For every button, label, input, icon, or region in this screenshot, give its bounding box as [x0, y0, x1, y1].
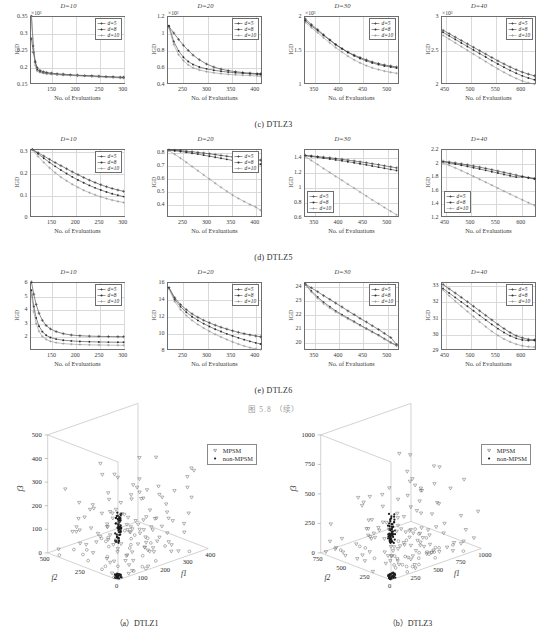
chart-cell-dtlz5-d40: D=404505005506001.21.41.61.822.2IGDNo. o… [411, 133, 547, 251]
x-tick-label: 250 [411, 574, 421, 581]
x-tick-label: 750 [456, 558, 466, 565]
x-tick-label: 200 [71, 86, 80, 92]
legend-label: d=10 [382, 32, 394, 38]
axis-exponent: ×10³ [305, 10, 315, 16]
x-tick-label: 300 [183, 558, 193, 565]
x-tick-label: 300 [202, 352, 211, 358]
legend-label: d=10 [320, 205, 332, 211]
legend-item: d=10 [309, 205, 331, 211]
x-tick-label: 550 [491, 219, 500, 225]
axis-label-f3: f3 [289, 486, 298, 492]
dot-marker-icon [211, 456, 220, 461]
x-tick-label: 350 [309, 352, 318, 358]
legend-item: d=10 [97, 32, 119, 38]
scatter-caption-a: （a）DTLZ1 [0, 617, 273, 628]
y-tick-label: 1.2 [411, 214, 439, 220]
x-axis-label: No. of Evaluations [304, 94, 399, 101]
legend-item: d=10 [97, 165, 119, 171]
y-tick-label: 2 [274, 13, 302, 19]
legend-label: d=10 [108, 32, 120, 38]
x-tick-label: 450 [440, 86, 449, 92]
legend-item-non-mpsm: non-MPSM [211, 455, 253, 463]
y-tick-label: 0.3 [0, 148, 28, 154]
chart-title: D=20 [137, 135, 274, 142]
x-tick-label: 250 [94, 219, 103, 225]
x-tick-label: 200 [71, 219, 80, 225]
chart-title: D=10 [0, 2, 137, 9]
y-axis-label: IGD [425, 302, 431, 328]
y-axis-label: IGD [151, 36, 157, 62]
x-tick-label: 400 [334, 219, 343, 225]
y-tick-label: 16 [137, 279, 165, 285]
y-tick-label: 0.8 [137, 149, 165, 155]
chart-title: D=10 [0, 135, 137, 142]
triangle-marker-icon [211, 448, 220, 453]
legend-item: d=10 [508, 32, 530, 38]
chart-title: D=30 [274, 268, 411, 275]
z-tick-label: 1000 [302, 431, 315, 438]
y-tick-label: 1.2 [137, 13, 165, 19]
chart-legend: d=5 d=8 d=10 [506, 284, 533, 306]
x-tick-label: 250 [94, 352, 103, 358]
y-tick-label: 2 [411, 160, 439, 166]
x-tick-label: 450 [358, 352, 367, 358]
axis-label-f2: f2 [51, 573, 57, 582]
y-tick-label: 0.4 [137, 81, 165, 87]
legend-label: d=10 [245, 165, 257, 171]
y-tick-label: 24 [274, 283, 302, 289]
x-tick-label: 100 [138, 574, 148, 581]
legend-item: d=10 [234, 165, 256, 171]
axis-label-f3: f3 [16, 486, 25, 492]
chart-legend: d=5 d=8 d=10 [95, 284, 122, 306]
legend-label: d=10 [519, 32, 531, 38]
legend-label: d=10 [519, 298, 531, 304]
y-tick-label: 0.6 [137, 64, 165, 70]
y-tick-label: 1.4 [411, 200, 439, 206]
subfigure-caption-d: (d) DTLZ5 [0, 253, 547, 262]
y-tick-label: 6 [0, 279, 28, 285]
x-tick-label: 350 [226, 219, 235, 225]
y-tick-label: 20 [274, 339, 302, 345]
x-tick-label: 150 [47, 352, 56, 358]
z-tick-label: 250 [305, 519, 315, 526]
y-axis-label: IGD [14, 169, 20, 195]
legend-item: d=10 [446, 205, 468, 211]
legend-item-mpsm: MPSM [485, 447, 527, 455]
legend-item-mpsm: MPSM [211, 447, 253, 455]
dot-marker-icon [485, 456, 494, 461]
x-axis-label: No. of Evaluations [304, 360, 399, 367]
x-tick-label: 350 [309, 86, 318, 92]
legend-label: non-MPSM [497, 455, 527, 463]
legend-label: d=10 [245, 298, 257, 304]
legend-label: MPSM [223, 447, 241, 455]
x-tick-label: 400 [205, 551, 215, 558]
x-tick-label: 400 [250, 86, 259, 92]
x-axis-label: No. of Evaluations [441, 227, 536, 234]
chart-legend: d=5 d=8 d=10 [232, 284, 259, 306]
y-axis-label: IGD [14, 36, 20, 62]
x-tick-label: 450 [358, 219, 367, 225]
x-tick-label: 450 [440, 219, 449, 225]
x-tick-label: 1000 [478, 551, 491, 558]
x-tick-label: 600 [516, 219, 525, 225]
y-axis-label: IGD [151, 302, 157, 328]
y-tick-label: 8 [137, 347, 165, 353]
axis-label-f1: f1 [454, 569, 460, 578]
x-tick-label: 300 [118, 86, 127, 92]
x-tick-label: 500 [433, 566, 443, 573]
y-tick-label: 2.2 [411, 146, 439, 152]
figure-caption: 图 5.8 （续） [0, 403, 547, 414]
x-axis-label: No. of Evaluations [30, 94, 125, 101]
triangle-marker-icon [485, 448, 494, 453]
y-tick-label: 0.6 [274, 214, 302, 220]
scatter-legend: MPSM non-MPSM [207, 444, 257, 465]
y-axis-label: IGD [288, 36, 294, 62]
chart-title: D=30 [274, 2, 411, 9]
chart-cell-dtlz3-d20: D=202503003504000.40.60.811.2×10³IGDNo. … [137, 0, 274, 118]
x-tick-label: 500 [382, 352, 391, 358]
chart-legend: d=5 d=8 d=10 [506, 18, 533, 40]
x-tick-label: 350 [226, 352, 235, 358]
legend-label: d=10 [382, 298, 394, 304]
z-tick-label: 500 [305, 490, 315, 497]
chart-legend: d=5 d=8 d=10 [369, 284, 396, 306]
